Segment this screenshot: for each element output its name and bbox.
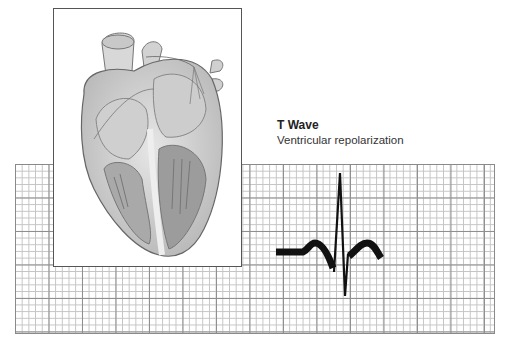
p-wave-segment (276, 243, 333, 268)
t-wave-segment (349, 243, 381, 258)
qrs-complex (334, 173, 348, 296)
ecg-trace-pqrst (0, 0, 506, 346)
